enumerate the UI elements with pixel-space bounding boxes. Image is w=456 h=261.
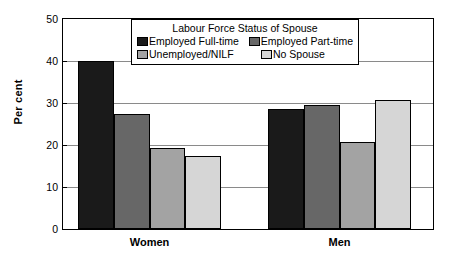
bar	[150, 148, 186, 229]
legend-row: Unemployed/NILF No Spouse	[137, 48, 353, 61]
legend-swatch-icon	[249, 37, 260, 46]
y-axis-tick-label: 30	[24, 98, 58, 109]
legend-item-employed-part-time: Employed Part-time	[249, 35, 353, 48]
y-axis-tick-mark	[62, 61, 67, 62]
x-axis-label: Men	[329, 236, 351, 248]
legend-swatch-icon	[261, 50, 272, 59]
y-axis-tick-label: 10	[24, 182, 58, 193]
y-axis-tick-mark	[62, 103, 67, 104]
y-axis-tick-label: 0	[24, 224, 58, 235]
bar	[375, 100, 411, 229]
bar	[304, 105, 340, 229]
legend: Labour Force Status of Spouse Employed F…	[131, 19, 359, 65]
legend-item-label: No Spouse	[273, 48, 325, 61]
legend-swatch-icon	[137, 50, 148, 59]
legend-item-label: Unemployed/NILF	[149, 48, 234, 61]
x-axis-label: Women	[130, 236, 170, 248]
legend-item-unemployed-nilf: Unemployed/NILF	[137, 48, 261, 61]
legend-item-label: Employed Part-time	[261, 35, 353, 48]
y-axis-tick-label: 40	[24, 56, 58, 67]
y-axis-tick-labels: 50403020100	[20, 18, 58, 230]
legend-swatch-icon	[137, 37, 148, 46]
legend-item-employed-full-time: Employed Full-time	[137, 35, 249, 48]
legend-title: Labour Force Status of Spouse	[137, 22, 353, 35]
legend-row: Employed Full-time Employed Part-time	[137, 35, 353, 48]
legend-item-no-spouse: No Spouse	[261, 48, 325, 61]
bar	[340, 142, 376, 229]
bar-chart: Per cent 50403020100 WomenMen Labour For…	[0, 0, 456, 261]
bar	[78, 61, 114, 229]
y-axis-tick-label: 50	[24, 14, 58, 25]
bar	[114, 114, 150, 229]
legend-item-label: Employed Full-time	[149, 35, 239, 48]
y-axis-tick-mark	[62, 145, 67, 146]
bar	[185, 156, 221, 229]
y-axis-tick-mark	[62, 187, 67, 188]
y-axis-tick-label: 20	[24, 140, 58, 151]
bar	[268, 109, 304, 229]
